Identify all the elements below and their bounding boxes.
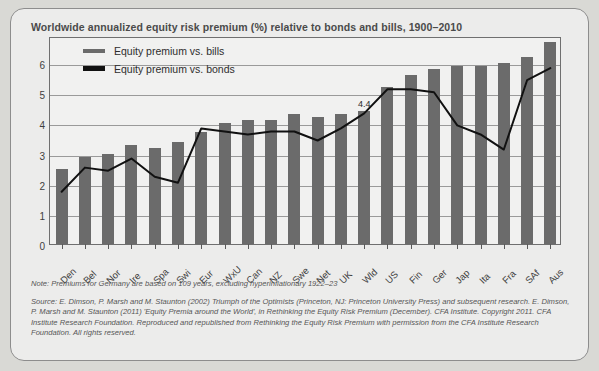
y-axis-tick-label: 5 bbox=[39, 90, 45, 101]
x-axis-tickmark bbox=[271, 244, 272, 249]
x-axis-tickmark bbox=[411, 244, 412, 249]
x-axis-tickmark bbox=[504, 244, 505, 249]
legend-swatch-bonds-icon bbox=[83, 66, 105, 71]
chart-note: Note: Premiums for Germany are based on … bbox=[31, 279, 573, 289]
y-axis-tick-label: 0 bbox=[39, 241, 45, 252]
x-axis-tickmark bbox=[62, 244, 63, 249]
x-axis-tickmark bbox=[481, 244, 482, 249]
y-axis-tick-label: 1 bbox=[39, 210, 45, 221]
chart-legend: Equity premium vs. bills Equity premium … bbox=[83, 43, 235, 79]
data-label: 4.4 bbox=[358, 99, 371, 109]
x-axis-tickmark bbox=[225, 244, 226, 249]
y-axis-tick-label: 6 bbox=[39, 60, 45, 71]
legend-item-bonds: Equity premium vs. bonds bbox=[83, 61, 235, 76]
chart-title: Worldwide annualized equity risk premium… bbox=[31, 21, 462, 33]
x-axis-tickmark bbox=[318, 244, 319, 249]
legend-label-bonds: Equity premium vs. bonds bbox=[114, 63, 235, 75]
x-axis-tickmark bbox=[434, 244, 435, 249]
x-axis-tickmark bbox=[178, 244, 179, 249]
y-axis-tick-label: 2 bbox=[39, 180, 45, 191]
chart-source: Source: E. Dimson, P. Marsh and M. Staun… bbox=[31, 297, 573, 339]
x-axis-tickmark bbox=[527, 244, 528, 249]
legend-item-bills: Equity premium vs. bills bbox=[83, 43, 235, 58]
x-axis-tickmark bbox=[341, 244, 342, 249]
x-axis-tickmark bbox=[201, 244, 202, 249]
y-axis-tick-label: 3 bbox=[39, 150, 45, 161]
x-axis-tickmark bbox=[294, 244, 295, 249]
x-axis-tickmark bbox=[364, 244, 365, 249]
x-axis-tickmark bbox=[387, 244, 388, 249]
x-axis-tickmark bbox=[155, 244, 156, 249]
x-axis-tickmark bbox=[248, 244, 249, 249]
y-axis-tick-label: 4 bbox=[39, 120, 45, 131]
x-axis-tickmark bbox=[457, 244, 458, 249]
chart-card: Worldwide annualized equity risk premium… bbox=[10, 8, 589, 361]
legend-label-bills: Equity premium vs. bills bbox=[114, 45, 224, 57]
x-axis-tickmark bbox=[131, 244, 132, 249]
legend-swatch-bills-icon bbox=[83, 49, 105, 53]
x-axis-tickmark bbox=[108, 244, 109, 249]
x-axis-tickmark bbox=[550, 244, 551, 249]
x-axis-tickmark bbox=[85, 244, 86, 249]
